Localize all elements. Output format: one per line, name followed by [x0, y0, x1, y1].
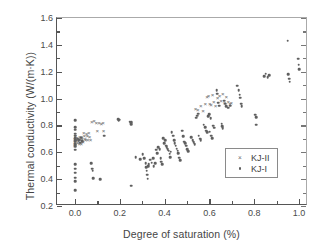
data-point-kj-ii: ×	[211, 92, 215, 98]
y-tick-label: 1.4	[40, 40, 53, 50]
data-point-kj-i	[268, 74, 271, 77]
data-point-kj-i	[181, 129, 184, 132]
plot-area: 0.20.40.60.81.01.21.41.6 0.00.20.40.60.8…	[56, 17, 307, 205]
data-point-kj-i	[164, 139, 167, 142]
data-point-kj-i	[200, 139, 203, 142]
data-point-kj-i	[103, 134, 106, 137]
y-tick-label: 1.6	[40, 13, 53, 23]
data-point-kj-i	[194, 143, 197, 146]
data-point-kj-i	[172, 135, 175, 138]
data-point-kj-i	[74, 171, 77, 174]
data-point-kj-ii: ×	[96, 128, 100, 134]
data-point-kj-i	[74, 167, 77, 170]
data-point-kj-i	[146, 174, 149, 177]
y-axis-label: Thermal conductivity (W/(m·K))	[20, 0, 40, 252]
dot-marker-icon	[231, 167, 249, 170]
data-point-kj-i	[92, 177, 95, 180]
data-point-kj-i	[130, 184, 133, 187]
data-point-kj-i	[208, 113, 211, 116]
data-point-kj-i	[161, 163, 164, 166]
data-point-kj-i	[170, 150, 173, 153]
data-point-kj-i	[74, 163, 77, 166]
data-point-kj-i	[288, 80, 291, 83]
data-point-kj-i	[216, 93, 219, 96]
y-tick-major-right	[301, 206, 306, 207]
data-point-kj-i	[237, 89, 240, 92]
data-point-kj-i	[177, 152, 180, 155]
data-point-kj-i	[239, 97, 242, 100]
legend-label: KJ-I	[249, 164, 267, 174]
y-tick-label: 1.0	[40, 94, 53, 104]
data-point-kj-i	[74, 128, 77, 131]
data-point-kj-i	[263, 75, 266, 78]
data-point-kj-i	[213, 127, 216, 130]
data-point-kj-i	[218, 104, 221, 107]
data-point-kj-i	[141, 153, 144, 156]
data-point-kj-i	[209, 131, 212, 134]
data-point-kj-i	[158, 148, 161, 151]
data-point-kj-i	[297, 63, 300, 66]
data-point-kj-i	[74, 145, 77, 148]
data-point-kj-i	[211, 137, 214, 140]
data-point-kj-i	[145, 170, 148, 173]
data-point-kj-i	[179, 159, 182, 162]
data-point-kj-i	[255, 123, 258, 126]
legend-label: KJ-II	[249, 153, 270, 163]
legend-item-kj-i: KJ-I	[231, 163, 270, 174]
data-point-kj-i	[74, 189, 77, 192]
data-point-kj-i	[90, 162, 93, 165]
data-point-kj-i	[150, 161, 153, 164]
data-point-kj-i	[170, 131, 173, 134]
data-point-kj-i	[156, 152, 159, 155]
data-point-kj-i	[80, 136, 83, 139]
data-point-kj-i	[209, 117, 212, 120]
data-point-kj-i	[81, 140, 84, 143]
data-point-kj-i	[229, 104, 232, 107]
data-point-kj-ii: ×	[101, 120, 105, 126]
data-point-kj-i	[222, 127, 225, 130]
x-tick-label: 0.2	[113, 208, 126, 218]
data-point-kj-i	[152, 157, 155, 160]
cross-marker-icon: ×	[231, 154, 249, 161]
data-point-kj-ii: ×	[204, 101, 208, 107]
data-point-kj-i	[187, 150, 190, 153]
chart-figure: Thermal conductivity (W/(m·K)) Degree of…	[0, 0, 330, 252]
data-point-kj-ii: ×	[201, 108, 205, 114]
data-point-kj-i	[99, 178, 102, 181]
data-point-kj-i	[130, 121, 133, 124]
y-tick-label: 0.6	[40, 147, 53, 157]
data-point-kj-i	[241, 105, 244, 108]
x-tick-label: 1.0	[293, 208, 306, 218]
data-point-kj-i	[287, 73, 290, 76]
legend-item-kj-ii: × KJ-II	[231, 152, 270, 163]
y-tick-label: 1.2	[40, 67, 53, 77]
data-point-kj-i	[154, 162, 157, 165]
x-tick-label: 0.4	[158, 208, 171, 218]
data-point-kj-i	[255, 116, 258, 119]
data-point-kj-i	[298, 68, 301, 71]
data-point-kj-i	[236, 85, 239, 88]
x-axis-label: Degree of saturation (%)	[56, 228, 307, 240]
y-tick-label: 0.2	[40, 201, 53, 211]
x-tick-label: 0.6	[203, 208, 216, 218]
data-point-kj-i	[92, 170, 95, 173]
data-point-kj-i	[74, 148, 77, 151]
data-point-kj-i	[159, 157, 162, 160]
data-point-kj-i	[135, 156, 138, 159]
y-tick-major	[57, 206, 62, 207]
data-point-kj-i	[169, 156, 172, 159]
data-point-kj-ii: ×	[102, 127, 106, 133]
data-point-kj-i	[182, 135, 185, 138]
data-point-kj-i	[153, 165, 156, 168]
data-point-kj-i	[139, 158, 142, 161]
data-point-kj-i	[143, 157, 146, 160]
data-point-kj-i	[197, 112, 200, 115]
data-point-kj-ii: ×	[89, 137, 93, 143]
data-point-kj-i	[265, 72, 268, 75]
data-point-kj-i	[297, 57, 300, 60]
y-tick-label: 0.4	[40, 174, 53, 184]
data-point-kj-i	[215, 89, 218, 92]
data-point-kj-i	[74, 180, 77, 183]
chart-legend: × KJ-II KJ-I	[225, 148, 278, 178]
x-tick-label: 0.0	[69, 208, 82, 218]
